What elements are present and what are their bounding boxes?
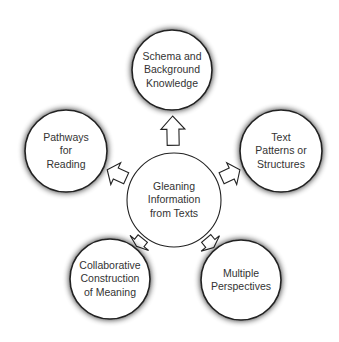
node-pathways-label: Pathways for Reading [25,110,107,192]
node-collaborative-label: Collaborative Construction of Meaning [70,239,150,319]
arrow-to-pathways-icon [107,163,129,185]
arrow-to-text-patterns-icon [219,163,240,185]
arrow-to-schema-icon [161,116,185,145]
node-multiple-perspectives-label: Multiple Perspectives [201,240,281,320]
node-schema-label: Schema and Background Knowledge [132,30,212,110]
node-text-patterns-label: Text Patterns or Structures [240,110,322,192]
center-node-label: Gleaning Information from Texts [127,153,221,247]
